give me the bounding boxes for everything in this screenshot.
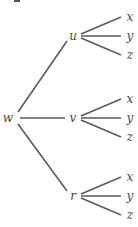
leaf-v-x-label: x: [127, 92, 134, 106]
leaf-u-y-label: y: [126, 29, 134, 43]
edge-root-to-u: [18, 41, 67, 112]
node-u-label: u: [69, 29, 77, 43]
node-r-label: r: [70, 189, 77, 203]
edge-u-to-x: [81, 17, 121, 34]
node-root-label: w: [3, 111, 14, 125]
leaf-u-x-label: x: [127, 10, 134, 24]
edge-v-to-z: [81, 120, 121, 137]
edge-r-to-x: [81, 177, 121, 194]
leaf-r-y-label: y: [126, 189, 134, 203]
leaf-v-y-label: y: [126, 111, 134, 125]
tree-diagram: wuxyzvxyzrxyz: [0, 0, 138, 227]
edge-root-to-r: [18, 124, 67, 191]
leaf-r-x-label: x: [127, 170, 134, 184]
leaf-r-z-label: z: [126, 208, 134, 222]
leaf-u-z-label: z: [126, 48, 134, 62]
edge-v-to-x: [81, 99, 121, 116]
edge-u-to-z: [81, 38, 121, 55]
edge-r-to-z: [81, 198, 121, 215]
clipped-text-fragment: [14, 0, 20, 2]
node-v-label: v: [70, 111, 77, 125]
leaf-v-z-label: z: [126, 130, 134, 144]
